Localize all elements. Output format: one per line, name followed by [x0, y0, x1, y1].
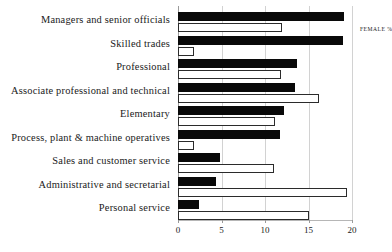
bar-group [178, 153, 352, 174]
x-tick-mark [352, 220, 353, 223]
category-label: Administrative and secretarial [39, 180, 170, 190]
x-tick-mark [222, 220, 223, 223]
x-tick-label: 15 [304, 225, 313, 235]
x-axis: 05101520 [178, 220, 352, 248]
bar-male [178, 130, 280, 139]
bar-female [178, 188, 347, 197]
bar-female [178, 94, 319, 103]
bar-group [178, 83, 352, 104]
x-tick-label: 0 [176, 225, 181, 235]
x-tick-mark [265, 220, 266, 223]
category-label: Process, plant & machine operatives [11, 133, 170, 143]
bar-female [178, 117, 275, 126]
bar-female [178, 23, 282, 32]
category-axis: Managers and senior officialsSkilled tra… [0, 0, 174, 226]
category-label: Elementary [120, 109, 170, 119]
category-label: Managers and senior officials [41, 15, 170, 25]
bar-male [178, 59, 297, 68]
category-label: Associate professional and technical [11, 86, 170, 96]
gridline-20 [352, 6, 353, 220]
bar-male [178, 200, 199, 209]
plot-area: MALE % FEMALE % [178, 6, 352, 220]
x-tick-mark [178, 220, 179, 223]
x-tick-label: 20 [348, 225, 357, 235]
bar-group [178, 12, 352, 33]
category-label: Personal service [99, 203, 170, 213]
category-label: Professional [116, 62, 170, 72]
bar-female [178, 141, 194, 150]
bar-male [178, 177, 216, 186]
bar-male [178, 106, 284, 115]
legend-label-male: MALE % [360, 16, 385, 22]
bar-female [178, 211, 309, 220]
legend-label-female: FEMALE % [360, 27, 392, 33]
bar-group [178, 59, 352, 80]
bar-group [178, 177, 352, 198]
bar-group [178, 200, 352, 221]
bar-female [178, 70, 281, 79]
legend-entry-female: FEMALE % [358, 25, 392, 34]
x-tick-mark [309, 220, 310, 223]
bar-male [178, 153, 220, 162]
bar-male [178, 36, 343, 45]
bar-group [178, 130, 352, 151]
category-label: Skilled trades [110, 39, 170, 49]
category-label: Sales and customer service [52, 156, 170, 166]
x-tick-label: 5 [219, 225, 224, 235]
bar-group [178, 36, 352, 57]
bar-female [178, 164, 274, 173]
x-tick-label: 10 [261, 225, 270, 235]
bar-female [178, 47, 194, 56]
chart-legend: MALE % FEMALE % [358, 14, 392, 36]
bar-group [178, 106, 352, 127]
bar-male [178, 83, 295, 92]
legend-entry-male: MALE % [358, 14, 392, 23]
bar-male [178, 12, 344, 21]
